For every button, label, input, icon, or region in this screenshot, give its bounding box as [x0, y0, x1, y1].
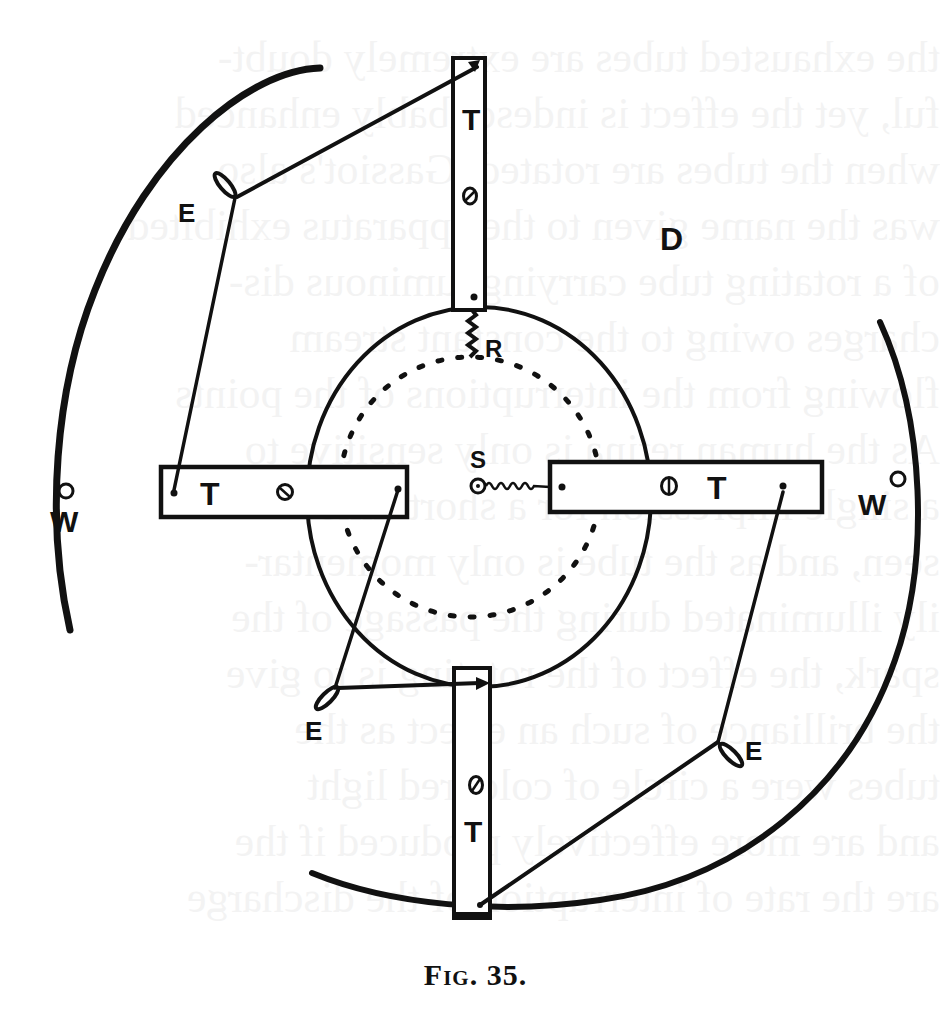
weight-label: W [50, 505, 79, 538]
tube-left-label: T [200, 476, 220, 512]
tube-top: T [453, 58, 485, 310]
tube-right-label: T [707, 470, 727, 506]
spring: S [470, 446, 550, 493]
contact-dot [780, 483, 787, 490]
tube-bottom: T [454, 668, 490, 918]
spring-label: S [470, 446, 486, 473]
outer-arc-left [56, 68, 320, 630]
resistance-coil: R [468, 310, 502, 362]
electrode-label: E [178, 198, 195, 228]
figure-caption: Fig. 35. [0, 958, 951, 992]
tube-top-label: T [462, 103, 480, 136]
electrode-bottom-left: E [305, 684, 341, 746]
electrode-label: E [745, 736, 762, 766]
contact-dot [559, 484, 566, 491]
tube-left: T [161, 467, 407, 517]
electrode-bottom-right: E [717, 736, 762, 769]
tube-bottom-cap [454, 912, 490, 918]
rotating-tubes-diagram: T T T T [0, 0, 951, 1018]
contact-dot [471, 294, 478, 301]
disc-label: D [660, 221, 683, 257]
weight-label: W [858, 488, 887, 521]
resistance-label: R [485, 335, 502, 362]
weight-right: W [858, 472, 905, 521]
tube-bottom-label: T [464, 815, 482, 848]
caption-number: 35. [487, 958, 528, 991]
caption-prefix: Fig. [424, 958, 478, 991]
electrode-label: E [305, 716, 322, 746]
